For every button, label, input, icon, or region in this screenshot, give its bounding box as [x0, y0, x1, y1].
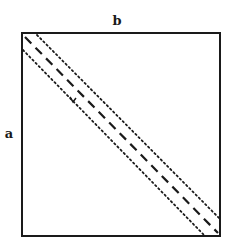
label-a: a	[5, 126, 14, 141]
lower-band-dotted	[23, 50, 204, 235]
band-matrix-diagram: b a	[0, 0, 234, 249]
label-b: b	[112, 13, 121, 28]
upper-band-dotted	[37, 35, 219, 218]
tick-marker-icon	[70, 97, 76, 102]
main-diagonal-dashed	[25, 37, 218, 233]
